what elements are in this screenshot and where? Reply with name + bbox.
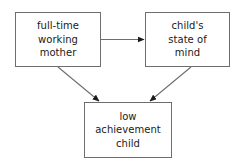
edge-mother-to-low-achievement	[58, 67, 99, 101]
node-line: mother	[40, 46, 77, 60]
node-line: mind	[175, 46, 200, 60]
node-line: state of	[168, 33, 207, 47]
flow-diagram: full-time working mother child's state o…	[0, 0, 240, 168]
node-low-achievement-child: low achievement child	[84, 102, 172, 158]
node-line: child	[116, 137, 140, 151]
edge-state-of-mind-to-low-achievement	[150, 67, 191, 101]
node-line: achievement	[95, 123, 161, 137]
node-full-time-working-mother: full-time working mother	[15, 12, 101, 67]
node-line: child's	[171, 19, 203, 33]
node-line: full-time	[37, 19, 79, 33]
node-line: low	[119, 110, 136, 124]
node-line: working	[38, 33, 78, 47]
node-childs-state-of-mind: child's state of mind	[145, 12, 230, 67]
